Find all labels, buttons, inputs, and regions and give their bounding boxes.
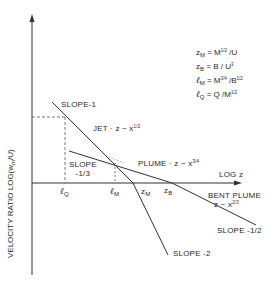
slope-1-text: SLOPE-1 <box>61 100 96 109</box>
slope-1-2-text: SLOPE -1/2 <box>217 226 262 235</box>
bent-plume-relation: z ~ x <box>214 200 232 209</box>
def-eq: = M <box>205 76 221 85</box>
definition-zm: zM = M1/2 /U <box>196 48 237 58</box>
def-sup: 1/2 <box>221 48 227 53</box>
def-sup: 3/4 <box>221 76 227 81</box>
x-axis-arrow-icon <box>234 181 242 186</box>
label-slope-minus-2: SLOPE -2 <box>173 249 211 258</box>
y-axis-title: VELOCITY RATIO LOG(wm/U) <box>6 149 15 258</box>
label-slope-minus-1-2: SLOPE -1/2 <box>217 226 262 235</box>
x-axis-title-text: LOG z <box>219 170 243 179</box>
bent-plume-text: BENT PLUME <box>208 191 261 200</box>
label-slope-minus-1: SLOPE-1 <box>61 100 96 109</box>
tick-sub: M <box>114 191 119 197</box>
bent-plume-exponent: 2/3 <box>232 200 239 205</box>
def-sub: M <box>200 52 205 58</box>
def-eq: = M <box>205 48 221 57</box>
tick-zb: zB <box>164 186 172 196</box>
def-rest: /B <box>227 76 237 85</box>
slope-1-3-text-a: SLOPE <box>69 160 97 169</box>
slope-minus-2-line <box>133 183 168 255</box>
y-axis-title-sub: m <box>10 160 16 165</box>
diagram-canvas <box>0 0 276 287</box>
y-axis-title-text: VELOCITY RATIO LOG(w <box>6 165 15 258</box>
definition-lm: ℓM = M3/4 /B1/2 <box>196 76 243 86</box>
def-sup2: 1/2 <box>237 76 243 81</box>
tick-lq: ℓQ <box>60 187 69 197</box>
def-sub: B <box>200 66 204 72</box>
definition-lq: ℓQ = Q /M1/2 <box>196 90 237 100</box>
y-axis-arrow-icon <box>30 14 35 22</box>
jet-exponent: 1/2 <box>134 124 141 129</box>
slope-1-3-text-b: -1/3 <box>69 169 97 178</box>
x-axis-title: LOG z <box>219 170 243 179</box>
label-jet: JET · z ~ x1/2 <box>93 124 140 134</box>
jet-text: JET · z ~ x <box>93 124 134 133</box>
def-eq: = B / U <box>204 62 231 71</box>
plume-exponent: 3/4 <box>192 159 199 164</box>
def-sub: Q <box>200 94 205 100</box>
slope-2-text: SLOPE -2 <box>173 249 211 258</box>
tick-sub: M <box>145 191 150 197</box>
definition-zb: zB = B / U3 <box>196 62 233 72</box>
def-sup: 1/2 <box>231 90 237 95</box>
def-rest: /U <box>227 48 237 57</box>
tick-sub: B <box>168 190 172 196</box>
y-axis-title-end: /U) <box>6 149 15 160</box>
tick-sub: Q <box>64 191 69 197</box>
def-eq: = Q /M <box>204 90 230 99</box>
def-sup: 3 <box>231 62 234 67</box>
label-slope-minus-1-3: SLOPE -1/3 <box>69 160 97 178</box>
def-sub: M <box>200 80 205 86</box>
tick-zm: zM <box>141 187 150 197</box>
label-bent-plume: BENT PLUME z ~ x2/3 <box>208 191 261 210</box>
label-plume: PLUME · z ~ x3/4 <box>138 159 199 169</box>
plume-text: PLUME · z ~ x <box>138 159 192 168</box>
lm-corner-dash <box>106 156 124 163</box>
tick-lm: ℓM <box>110 187 119 197</box>
